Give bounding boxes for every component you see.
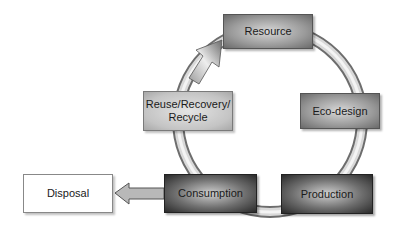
node-disposal-label: Disposal	[47, 187, 89, 200]
node-eco-design-label: Eco-design	[312, 105, 367, 118]
node-disposal: Disposal	[23, 174, 113, 213]
node-production-label: Production	[301, 188, 354, 201]
node-production: Production	[281, 174, 373, 214]
node-reuse-recovery-recycle: Reuse/Recovery/ Recycle	[143, 91, 233, 131]
node-consumption: Consumption	[164, 174, 257, 213]
node-eco-design: Eco-design	[300, 93, 380, 129]
node-reuse-label: Reuse/Recovery/ Recycle	[146, 98, 230, 124]
circular-economy-diagram: Resource Eco-design Reuse/Recovery/ Recy…	[0, 0, 414, 226]
node-resource-label: Resource	[244, 25, 291, 38]
arrow-to-disposal-icon	[115, 183, 164, 204]
node-consumption-label: Consumption	[178, 187, 243, 200]
node-resource: Resource	[223, 14, 313, 49]
